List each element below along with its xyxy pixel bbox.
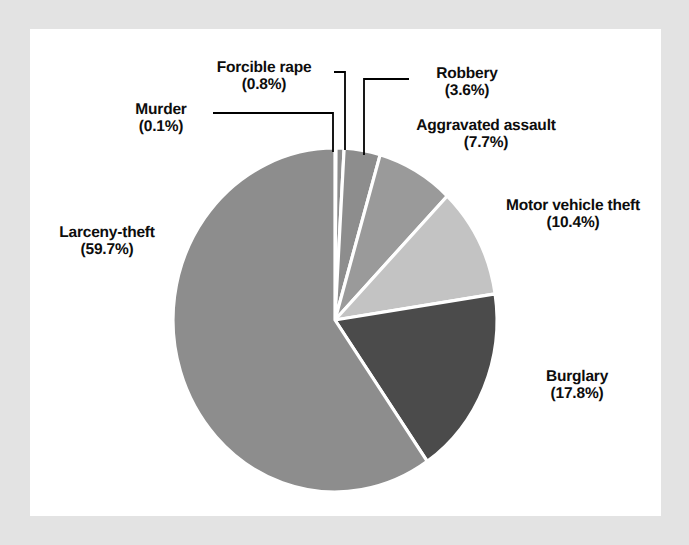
pie-label-forcible-rape: Forcible rape (0.8%) (194, 59, 334, 94)
pie-label-aggravated-assault-name: Aggravated assault (391, 117, 581, 134)
pie-label-robbery-name: Robbery (414, 65, 520, 82)
pie-label-larceny-theft: Larceny-theft (59.7%) (34, 224, 180, 259)
pie-label-murder: Murder (0.1%) (108, 101, 214, 136)
pie-label-forcible-rape-name: Forcible rape (194, 59, 334, 76)
leader-line-forcible-rape (334, 72, 345, 150)
pie-label-motor-vehicle-theft-percent: (10.4%) (470, 214, 676, 231)
pie-chart-graphic (0, 0, 689, 545)
pie-label-forcible-rape-percent: (0.8%) (194, 76, 334, 93)
pie-label-motor-vehicle-theft-name: Motor vehicle theft (470, 197, 676, 214)
pie-label-larceny-theft-name: Larceny-theft (34, 224, 180, 241)
pie-label-larceny-theft-percent: (59.7%) (34, 241, 180, 258)
pie-label-burglary-name: Burglary (512, 368, 642, 385)
pie-label-motor-vehicle-theft: Motor vehicle theft (10.4%) (470, 197, 676, 232)
pie-label-murder-percent: (0.1%) (108, 118, 214, 135)
pie-label-burglary: Burglary (17.8%) (512, 368, 642, 403)
pie-label-murder-name: Murder (108, 101, 214, 118)
pie-label-aggravated-assault: Aggravated assault (7.7%) (391, 117, 581, 152)
pie-label-burglary-percent: (17.8%) (512, 385, 642, 402)
pie-label-aggravated-assault-percent: (7.7%) (391, 134, 581, 151)
leader-line-murder (213, 113, 333, 152)
pie-label-robbery-percent: (3.6%) (414, 82, 520, 99)
figure-canvas: Forcible rape (0.8%) Murder (0.1%) Robbe… (0, 0, 689, 545)
pie-slice-group (173, 148, 497, 492)
pie-label-robbery: Robbery (3.6%) (414, 65, 520, 100)
